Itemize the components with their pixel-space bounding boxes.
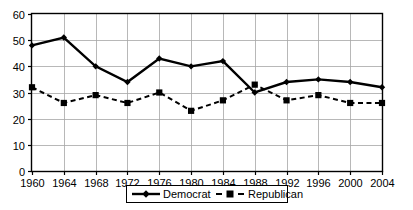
legend-label-republican: Republican bbox=[248, 188, 303, 200]
x-axis-tick-label: 1968 bbox=[84, 177, 108, 189]
square-marker-icon bbox=[156, 89, 162, 95]
square-marker-icon bbox=[188, 108, 194, 114]
square-marker-icon bbox=[347, 100, 353, 106]
square-marker-icon bbox=[379, 100, 385, 106]
square-marker-icon bbox=[29, 84, 35, 90]
square-marker-icon bbox=[220, 97, 226, 103]
y-axis-tick-label: 20 bbox=[13, 114, 25, 126]
square-marker-icon bbox=[315, 92, 321, 98]
x-axis-tick-label: 1960 bbox=[20, 177, 44, 189]
y-axis-tick-label: 30 bbox=[13, 88, 25, 100]
square-marker-icon bbox=[124, 100, 130, 106]
square-marker-icon bbox=[93, 92, 99, 98]
legend-label-democrat: Democrat bbox=[163, 188, 211, 200]
square-marker-icon bbox=[283, 97, 289, 103]
x-axis-tick-label: 2004 bbox=[370, 177, 394, 189]
square-marker-icon bbox=[252, 82, 258, 88]
x-axis-tick-label: 1996 bbox=[306, 177, 330, 189]
square-marker-icon bbox=[227, 191, 234, 198]
square-marker-icon bbox=[61, 100, 67, 106]
chart-canvas: 0102030405060 19601964196819721976198019… bbox=[0, 0, 413, 210]
y-axis-tick-label: 40 bbox=[13, 61, 25, 73]
line-chart: 0102030405060 19601964196819721976198019… bbox=[0, 0, 413, 210]
x-axis-tick-label: 2000 bbox=[338, 177, 362, 189]
y-axis-tick-label: 60 bbox=[13, 9, 25, 21]
y-axis-tick-label: 10 bbox=[13, 140, 25, 152]
chart-legend: Democrat Republican bbox=[127, 186, 304, 203]
y-axis-tick-label: 0 bbox=[19, 166, 25, 178]
x-axis-tick-label: 1964 bbox=[52, 177, 76, 189]
y-axis-tick-label: 50 bbox=[13, 35, 25, 47]
